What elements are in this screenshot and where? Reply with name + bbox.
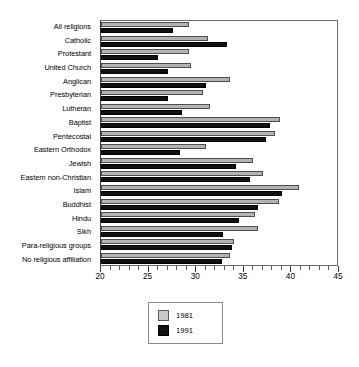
bar-group bbox=[101, 48, 337, 62]
chart-legend: 1981 1991 bbox=[148, 302, 223, 344]
bar-chart: All religionsCatholicProtestantUnited Ch… bbox=[0, 0, 359, 367]
category-label: Anglican bbox=[0, 75, 94, 89]
plot-area bbox=[100, 20, 338, 266]
category-label: Protestant bbox=[0, 47, 94, 61]
bar-1981 bbox=[101, 90, 203, 95]
bar-group bbox=[101, 252, 337, 266]
category-label: Eastern non-Christian bbox=[0, 170, 94, 184]
bar-1991 bbox=[101, 177, 250, 182]
light-gray-swatch-icon bbox=[158, 310, 169, 321]
bar-1981 bbox=[101, 117, 280, 122]
minor-tick bbox=[167, 266, 168, 270]
minor-tick bbox=[214, 266, 215, 270]
legend-item-1981: 1981 bbox=[158, 308, 222, 323]
bar-1981 bbox=[101, 36, 208, 41]
bar-group bbox=[101, 238, 337, 252]
legend-label: 1981 bbox=[176, 312, 193, 320]
bar-1991 bbox=[101, 83, 206, 88]
minor-tick bbox=[186, 266, 187, 270]
legend-item-1991: 1991 bbox=[158, 323, 222, 338]
bar-1981 bbox=[101, 239, 234, 244]
minor-tick bbox=[281, 266, 282, 270]
bar-1991 bbox=[101, 150, 180, 155]
bar-1991 bbox=[101, 123, 270, 128]
minor-tick bbox=[205, 266, 206, 270]
bar-1991 bbox=[101, 205, 258, 210]
bar-1991 bbox=[101, 55, 158, 60]
bar-group bbox=[101, 75, 337, 89]
category-label: Para-religious groups bbox=[0, 239, 94, 253]
bar-1991 bbox=[101, 259, 222, 264]
black-swatch-icon bbox=[158, 325, 169, 336]
minor-tick bbox=[262, 266, 263, 270]
minor-tick bbox=[309, 266, 310, 270]
minor-tick bbox=[224, 266, 225, 270]
minor-tick bbox=[157, 266, 158, 270]
bar-group bbox=[101, 102, 337, 116]
bar-1981 bbox=[101, 158, 253, 163]
bar-group bbox=[101, 211, 337, 225]
bar-group bbox=[101, 62, 337, 76]
bar-1981 bbox=[101, 63, 191, 68]
bar-1981 bbox=[101, 226, 258, 231]
bar-group bbox=[101, 143, 337, 157]
bar-group bbox=[101, 35, 337, 49]
bar-1991 bbox=[101, 232, 223, 237]
category-label: Buddhist bbox=[0, 198, 94, 212]
category-label: Hindu bbox=[0, 211, 94, 225]
bar-1981 bbox=[101, 199, 279, 204]
category-label: Lutheran bbox=[0, 102, 94, 116]
bar-1981 bbox=[101, 131, 275, 136]
bar-1981 bbox=[101, 171, 263, 176]
legend-label: 1991 bbox=[176, 327, 193, 335]
x-tick-label: 30 bbox=[191, 273, 200, 281]
category-label: United Church bbox=[0, 61, 94, 75]
bar-group bbox=[101, 21, 337, 35]
x-tick-label: 25 bbox=[143, 273, 152, 281]
minor-tick bbox=[319, 266, 320, 270]
bar-1991 bbox=[101, 96, 168, 101]
bar-1991 bbox=[101, 218, 239, 223]
category-axis-labels: All religionsCatholicProtestantUnited Ch… bbox=[0, 20, 94, 266]
bar-1981 bbox=[101, 253, 230, 258]
category-label: Catholic bbox=[0, 34, 94, 48]
category-label: Presbyterian bbox=[0, 88, 94, 102]
bar-rows bbox=[101, 21, 337, 265]
bar-1991 bbox=[101, 69, 168, 74]
bar-group bbox=[101, 184, 337, 198]
bar-1981 bbox=[101, 104, 210, 109]
bar-1981 bbox=[101, 77, 230, 82]
x-tick-label: 35 bbox=[238, 273, 247, 281]
bar-1981 bbox=[101, 144, 206, 149]
bar-1981 bbox=[101, 212, 255, 217]
bar-1991 bbox=[101, 137, 266, 142]
bar-group bbox=[101, 157, 337, 171]
category-label: Eastern Orthodox bbox=[0, 143, 94, 157]
bar-1981 bbox=[101, 49, 189, 54]
x-axis-tick-labels: 202530354045 bbox=[100, 273, 338, 285]
x-tick-label: 40 bbox=[286, 273, 295, 281]
category-label: Pentecostal bbox=[0, 129, 94, 143]
bar-group bbox=[101, 116, 337, 130]
x-axis-ticks bbox=[100, 266, 338, 272]
category-label: Jewish bbox=[0, 157, 94, 171]
category-label: No religious affiliation bbox=[0, 252, 94, 266]
x-tick-label: 20 bbox=[95, 273, 104, 281]
bar-1981 bbox=[101, 22, 189, 27]
minor-tick bbox=[110, 266, 111, 270]
minor-tick bbox=[138, 266, 139, 270]
bar-1991 bbox=[101, 191, 282, 196]
bar-1981 bbox=[101, 185, 299, 190]
bar-1991 bbox=[101, 110, 182, 115]
bar-1991 bbox=[101, 164, 236, 169]
x-tick-label: 45 bbox=[333, 273, 342, 281]
minor-tick bbox=[233, 266, 234, 270]
bar-group bbox=[101, 197, 337, 211]
bar-1991 bbox=[101, 42, 227, 47]
category-label: Islam bbox=[0, 184, 94, 198]
minor-tick bbox=[271, 266, 272, 270]
minor-tick bbox=[252, 266, 253, 270]
category-label: Sikh bbox=[0, 225, 94, 239]
bar-group bbox=[101, 130, 337, 144]
bar-group bbox=[101, 224, 337, 238]
